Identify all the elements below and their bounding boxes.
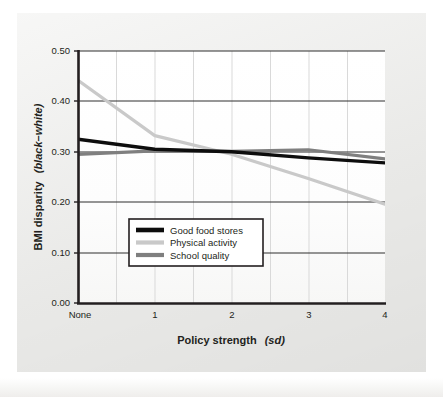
y-tick-label: 0.30: [52, 146, 71, 157]
svg-text:Policy strength (sd): Policy strength (sd): [177, 334, 285, 346]
y-tick-label: 0.50: [52, 45, 71, 56]
y-tick-label: 0.10: [52, 247, 71, 258]
figure-container: 0.50 0.40 0.30 0.20 0.10 0.00 None 1 2 3…: [0, 0, 443, 397]
x-tick-label: 2: [229, 309, 234, 320]
bmi-disparity-line-chart: 0.50 0.40 0.30 0.20 0.10 0.00 None 1 2 3…: [0, 0, 443, 397]
y-tick-label: 0.20: [52, 196, 71, 207]
x-tick-label: 1: [152, 309, 157, 320]
svg-text:BMI disparity (black–w: BMI disparity (black–white): [32, 103, 44, 250]
x-tick-label: 3: [306, 309, 311, 320]
x-axis-title-main: Policy strength: [177, 334, 257, 346]
y-tick-label: 0.40: [52, 95, 71, 106]
y-axis-tick-labels: 0.50 0.40 0.30 0.20 0.10 0.00: [52, 45, 71, 308]
x-tick-label: None: [69, 309, 92, 320]
x-axis-title: Policy strength (sd): [177, 334, 285, 346]
x-tick-label: 4: [382, 309, 387, 320]
y-tick-label: 0.00: [52, 297, 71, 308]
legend-label-physical-activity: Physical activity: [170, 237, 237, 248]
x-axis-title-units: (sd): [265, 334, 286, 346]
y-axis-title-units: (black–white): [32, 103, 44, 173]
legend-label-good-food-stores: Good food stores: [170, 225, 243, 236]
x-axis-tick-labels: None 1 2 3 4: [69, 309, 388, 320]
chart-legend: Good food stores Physical activity Schoo…: [129, 219, 263, 266]
y-axis-title-main: BMI disparity: [32, 180, 44, 250]
legend-label-school-quality: School quality: [170, 250, 229, 261]
y-axis-title: BMI disparity (black–white): [32, 103, 44, 250]
